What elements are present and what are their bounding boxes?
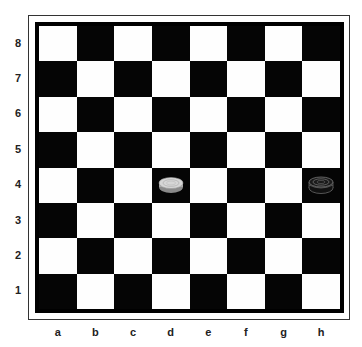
square-d2[interactable] [152, 238, 190, 273]
square-g1[interactable] [265, 274, 303, 309]
square-b6[interactable] [77, 97, 115, 132]
square-f4[interactable] [227, 168, 265, 203]
square-h7[interactable] [302, 61, 340, 96]
square-d5[interactable] [152, 132, 190, 167]
square-e7[interactable] [190, 61, 228, 96]
file-label-g: g [278, 326, 290, 338]
square-e2[interactable] [190, 238, 228, 273]
square-b2[interactable] [77, 238, 115, 273]
square-c8[interactable] [114, 26, 152, 61]
square-h3[interactable] [302, 203, 340, 238]
square-c5[interactable] [114, 132, 152, 167]
file-label-c: c [127, 326, 139, 338]
square-b7[interactable] [77, 61, 115, 96]
square-h8[interactable] [302, 26, 340, 61]
square-f7[interactable] [227, 61, 265, 96]
square-h5[interactable] [302, 132, 340, 167]
square-d8[interactable] [152, 26, 190, 61]
file-label-e: e [202, 326, 214, 338]
square-b3[interactable] [77, 203, 115, 238]
square-d6[interactable] [152, 97, 190, 132]
square-e4[interactable] [190, 168, 228, 203]
square-a5[interactable] [39, 132, 77, 167]
square-f5[interactable] [227, 132, 265, 167]
square-f6[interactable] [227, 97, 265, 132]
square-h1[interactable] [302, 274, 340, 309]
square-a7[interactable] [39, 61, 77, 96]
checkers-board [35, 22, 344, 313]
rank-label-7: 7 [12, 72, 24, 84]
file-label-a: a [52, 326, 64, 338]
square-g8[interactable] [265, 26, 303, 61]
square-c3[interactable] [114, 203, 152, 238]
square-a1[interactable] [39, 274, 77, 309]
square-c6[interactable] [114, 97, 152, 132]
white-man-icon[interactable] [158, 176, 184, 194]
square-d4[interactable] [152, 168, 190, 203]
square-b1[interactable] [77, 274, 115, 309]
rank-label-3: 3 [12, 214, 24, 226]
square-d3[interactable] [152, 203, 190, 238]
square-a8[interactable] [39, 26, 77, 61]
square-a6[interactable] [39, 97, 77, 132]
square-c7[interactable] [114, 61, 152, 96]
square-b8[interactable] [77, 26, 115, 61]
square-e1[interactable] [190, 274, 228, 309]
square-g3[interactable] [265, 203, 303, 238]
square-h4[interactable] [302, 168, 340, 203]
rank-label-1: 1 [12, 284, 24, 296]
square-b4[interactable] [77, 168, 115, 203]
rank-label-5: 5 [12, 143, 24, 155]
rank-label-4: 4 [12, 178, 24, 190]
square-g7[interactable] [265, 61, 303, 96]
square-c4[interactable] [114, 168, 152, 203]
black-king-icon[interactable] [308, 176, 334, 194]
square-c2[interactable] [114, 238, 152, 273]
rank-label-6: 6 [12, 107, 24, 119]
square-g6[interactable] [265, 97, 303, 132]
file-label-b: b [89, 326, 101, 338]
square-e3[interactable] [190, 203, 228, 238]
square-f1[interactable] [227, 274, 265, 309]
square-b5[interactable] [77, 132, 115, 167]
square-h2[interactable] [302, 238, 340, 273]
square-c1[interactable] [114, 274, 152, 309]
rank-label-2: 2 [12, 249, 24, 261]
square-a3[interactable] [39, 203, 77, 238]
square-f3[interactable] [227, 203, 265, 238]
file-label-f: f [240, 326, 252, 338]
square-f8[interactable] [227, 26, 265, 61]
square-e5[interactable] [190, 132, 228, 167]
square-e6[interactable] [190, 97, 228, 132]
file-label-d: d [165, 326, 177, 338]
square-e8[interactable] [190, 26, 228, 61]
square-d1[interactable] [152, 274, 190, 309]
square-f2[interactable] [227, 238, 265, 273]
board-grid [39, 26, 340, 309]
square-g4[interactable] [265, 168, 303, 203]
square-a4[interactable] [39, 168, 77, 203]
square-d7[interactable] [152, 61, 190, 96]
square-h6[interactable] [302, 97, 340, 132]
square-g5[interactable] [265, 132, 303, 167]
square-a2[interactable] [39, 238, 77, 273]
file-label-h: h [315, 326, 327, 338]
square-g2[interactable] [265, 238, 303, 273]
rank-label-8: 8 [12, 37, 24, 49]
